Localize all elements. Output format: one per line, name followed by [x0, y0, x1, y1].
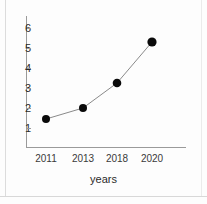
- x-tick-label-2011: 2011: [26, 153, 66, 164]
- data-point-2011: [42, 115, 50, 123]
- x-axis-title: years: [0, 173, 207, 185]
- x-tick-label-2018: 2018: [97, 153, 137, 164]
- chart-figure: 1 2 3 4 5 6: [0, 0, 207, 204]
- series-line: [46, 42, 152, 119]
- data-point-2020: [147, 37, 156, 46]
- data-point-2013: [79, 104, 87, 112]
- plot-area: 1 2 3 4 5 6: [0, 0, 207, 204]
- data-point-2018: [113, 79, 122, 88]
- x-tick-label-2020: 2020: [132, 153, 172, 164]
